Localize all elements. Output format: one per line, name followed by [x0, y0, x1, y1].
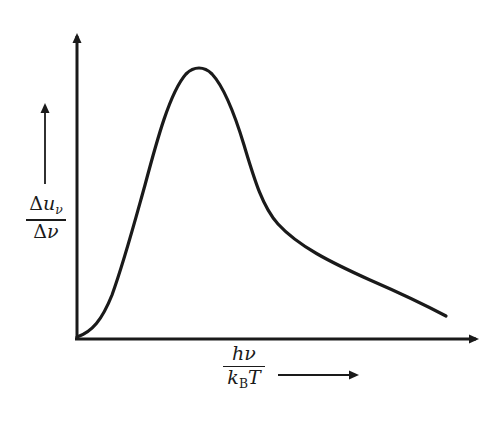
- x-label-k: k: [227, 366, 239, 388]
- x-label-numerator: hν: [223, 344, 265, 364]
- y-label-subscript: ν: [55, 203, 63, 217]
- y-label-var: u: [43, 192, 55, 214]
- y-label-numerator: Δuν: [26, 194, 66, 217]
- x-axis-label: hν kBT: [223, 344, 265, 392]
- x-label-denominator: kBT: [223, 368, 265, 391]
- delta-symbol: Δ: [29, 192, 43, 214]
- y-label-den-var: ν: [47, 220, 59, 242]
- delta-symbol: Δ: [33, 220, 47, 242]
- y-label-denominator: Δν: [26, 222, 66, 242]
- x-label-T: T: [248, 366, 261, 388]
- planck-curve: [77, 68, 446, 337]
- x-label-subscript: B: [239, 378, 248, 392]
- y-axis-label: Δuν Δν: [26, 194, 66, 242]
